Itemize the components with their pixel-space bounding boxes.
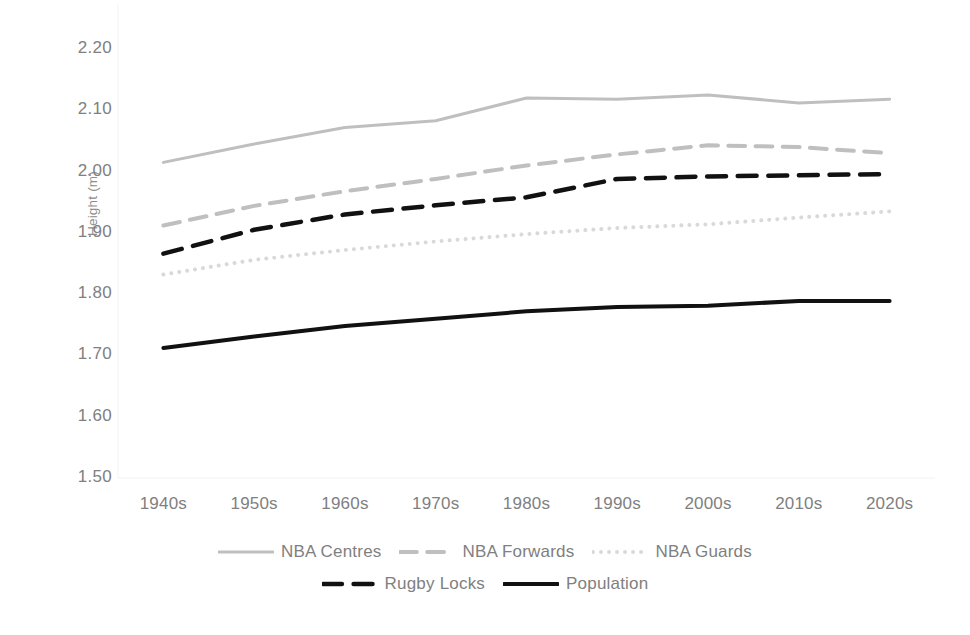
x-axis-tick-labels: 1940s1950s1960s1970s1980s1990s2000s2010s…	[0, 494, 970, 520]
x-tick-label: 1940s	[118, 494, 208, 514]
legend-item-population[interactable]: Population	[503, 574, 648, 594]
x-tick-label: 2000s	[663, 494, 753, 514]
x-tick-label: 2020s	[845, 494, 935, 514]
legend-item-rugby-locks[interactable]: Rugby Locks	[322, 574, 485, 594]
series-line-population	[163, 301, 889, 348]
x-tick-label: 1960s	[300, 494, 390, 514]
legend-swatch-solid-line-icon	[503, 577, 559, 591]
series-line-nba-guards	[163, 211, 889, 274]
legend-item-nba-forwards[interactable]: NBA Forwards	[399, 542, 574, 562]
legend-swatch-dotted-line-icon	[592, 545, 648, 559]
x-tick-label: 1990s	[572, 494, 662, 514]
x-tick-label: 2010s	[754, 494, 844, 514]
legend-item-nba-guards[interactable]: NBA Guards	[592, 542, 752, 562]
series-line-rugby-locks	[163, 174, 889, 254]
legend-swatch-dashed-line-icon	[322, 577, 378, 591]
legend-row: Rugby LocksPopulation	[0, 568, 970, 600]
height-trends-line-chart: Height (m) 1.501.601.701.801.902.002.102…	[0, 0, 970, 635]
legend-label: NBA Forwards	[462, 542, 574, 562]
x-tick-label: 1980s	[482, 494, 572, 514]
legend-label: NBA Guards	[655, 542, 752, 562]
series-line-nba-forwards	[163, 145, 889, 225]
legend-row: NBA CentresNBA ForwardsNBA Guards	[0, 536, 970, 568]
legend-label: Population	[566, 574, 648, 594]
legend-label: NBA Centres	[281, 542, 381, 562]
legend-swatch-dashed-line-icon	[399, 545, 455, 559]
x-tick-label: 1950s	[209, 494, 299, 514]
legend-swatch-solid-line-icon	[218, 545, 274, 559]
legend-label: Rugby Locks	[385, 574, 485, 594]
series-line-nba-centres	[163, 95, 889, 162]
legend-item-nba-centres[interactable]: NBA Centres	[218, 542, 381, 562]
x-tick-label: 1970s	[391, 494, 481, 514]
chart-legend: NBA CentresNBA ForwardsNBA GuardsRugby L…	[0, 536, 970, 600]
